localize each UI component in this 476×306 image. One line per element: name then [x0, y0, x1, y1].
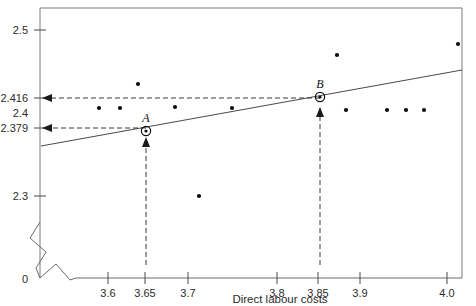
data-point: [456, 42, 460, 46]
y-tick-label-2: 2.4: [13, 107, 28, 119]
x-tick-label-0: 3.6: [100, 287, 115, 299]
regression-line: [41, 70, 462, 146]
plot-frame: [40, 8, 462, 278]
y-tick-label-3: 2.379: [0, 122, 28, 134]
x-tick-label-2: 3.7: [180, 287, 195, 299]
marker-b: [315, 92, 324, 101]
x-axis-break-icon: [40, 264, 76, 280]
arrow-b-left: [42, 94, 52, 102]
x-axis-title: Direct labour costs: [232, 293, 327, 305]
data-point: [118, 106, 122, 110]
data-point: [173, 105, 177, 109]
x-tick-label-1: 3.65: [134, 287, 155, 299]
arrow-b-up: [316, 107, 324, 117]
y-tick-label-4: 2.3: [13, 190, 28, 202]
data-point: [197, 194, 201, 198]
origin-label: 0: [22, 273, 28, 285]
y-axis-break-icon: [30, 222, 46, 278]
chart-svg: 2.5 2.416 2.4 2.379 2.3 0 3.6 3.65 3.7 3…: [0, 0, 476, 306]
data-point: [136, 82, 140, 86]
data-point: [97, 106, 101, 110]
data-point: [344, 108, 348, 112]
data-point: [230, 106, 234, 110]
y-tick-label-1: 2.416: [0, 92, 28, 104]
marker-b-label: B: [316, 77, 324, 91]
x-tick-label-6: 4.0: [439, 287, 454, 299]
data-point: [335, 53, 339, 57]
scatter-chart-figure: 2.5 2.416 2.4 2.379 2.3 0 3.6 3.65 3.7 3…: [0, 0, 476, 306]
data-points: [97, 42, 460, 198]
guide-lines: [48, 98, 320, 268]
data-point: [404, 108, 408, 112]
marker-a-label: A: [141, 111, 150, 125]
x-tick-label-5: 3.9: [352, 287, 367, 299]
arrow-a-up: [142, 137, 150, 147]
y-tick-label-0: 2.5: [13, 24, 28, 36]
data-point: [385, 108, 389, 112]
data-point: [422, 108, 426, 112]
arrow-a-left: [42, 124, 52, 132]
